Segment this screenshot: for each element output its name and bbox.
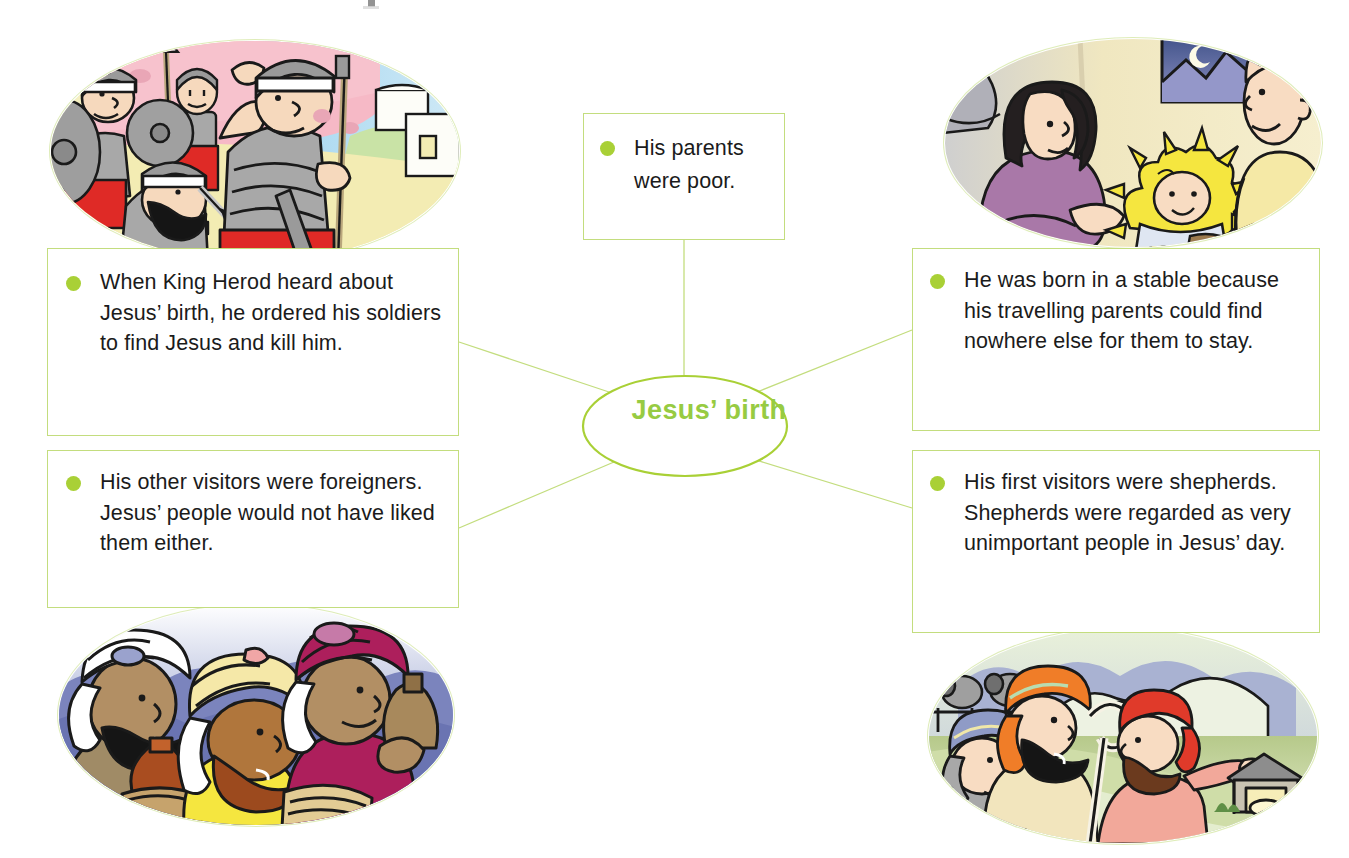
branch-box-stable[interactable]: He was born in a stable because his trav… <box>912 248 1320 431</box>
centre-hub-label: Jesus’ birth <box>604 395 814 426</box>
branch-box-foreigners[interactable]: His other visitors were foreigners. Jesu… <box>47 450 459 608</box>
centre-hub-ellipse <box>583 376 787 476</box>
connector-stable <box>757 330 912 392</box>
branch-box-herod[interactable]: When King Herod heard about Jesus’ birth… <box>47 248 459 436</box>
branch-box-shepherds[interactable]: His first visitors were shepherds. Sheph… <box>912 450 1320 633</box>
connector-herod <box>459 342 612 393</box>
nativity-illustration <box>944 38 1322 248</box>
roman-soldiers-illustration <box>50 40 460 262</box>
branch-box-parents-poor[interactable]: His parents were poor. <box>583 113 785 240</box>
wise-men-illustration <box>58 604 454 826</box>
bullet-dot-icon <box>930 476 945 491</box>
connector-foreigners <box>459 462 614 528</box>
shepherds-illustration <box>928 628 1318 844</box>
branch-text-shepherds: His first visitors were shepherds. Sheph… <box>964 467 1309 559</box>
connector-shepherds <box>756 460 912 508</box>
bullet-dot-icon <box>600 141 615 156</box>
mind-map-canvas: Jesus’ birth <box>0 0 1349 858</box>
branch-text-herod: When King Herod heard about Jesus’ birth… <box>100 267 444 359</box>
branch-text-stable: He was born in a stable because his trav… <box>964 265 1309 357</box>
bullet-dot-icon <box>930 274 945 289</box>
page-crop-artifact-shadow <box>363 6 379 9</box>
branch-text-parents-poor: His parents were poor. <box>634 132 774 198</box>
bullet-dot-icon <box>66 276 81 291</box>
bullet-dot-icon <box>66 476 81 491</box>
branch-text-foreigners: His other visitors were foreigners. Jesu… <box>100 467 448 559</box>
